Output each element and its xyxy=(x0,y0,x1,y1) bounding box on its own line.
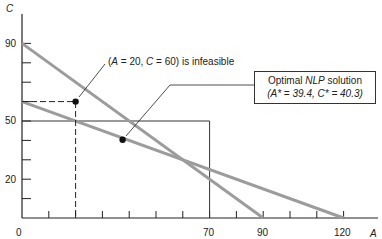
infeasible-point xyxy=(72,98,78,104)
chart: C A 0 70 90 120 90 50 20 (A = 20, C = 60… xyxy=(0,0,382,239)
annotation-optimal-line1: Optimal NLP solution xyxy=(259,74,371,87)
x-axis-label: A xyxy=(369,228,377,239)
y-tick-label-90: 90 xyxy=(5,38,17,49)
chart-plot: C A 0 70 90 120 90 50 20 xyxy=(0,0,382,239)
y-tick-label-50: 50 xyxy=(5,115,17,126)
optimal-point xyxy=(119,137,125,143)
y-tick-label-20: 20 xyxy=(5,174,17,185)
constraint-line-2 xyxy=(22,102,344,218)
leader-line-optimal xyxy=(126,85,254,136)
leader-line-infeasible xyxy=(79,64,105,97)
x-tick-label-70: 70 xyxy=(203,227,215,238)
x-tick-label-90: 90 xyxy=(257,227,269,238)
x-tick-label-120: 120 xyxy=(334,227,351,238)
annotation-optimal-line2: (A* = 39.4, C* = 40.3) xyxy=(259,87,371,100)
y-axis-label: C xyxy=(6,3,14,14)
constraint-line-1 xyxy=(22,43,263,218)
origin-label: 0 xyxy=(16,227,22,238)
annotation-infeasible: (A = 20, C = 60) is infeasible xyxy=(108,56,234,67)
annotation-optimal-box: Optimal NLP solution (A* = 39.4, C* = 40… xyxy=(254,71,376,104)
x-ticks xyxy=(49,211,344,218)
